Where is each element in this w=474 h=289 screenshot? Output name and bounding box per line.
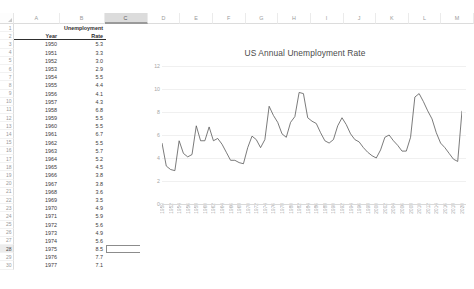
cell-b30[interactable]: 7.1 [60,261,106,269]
cell-a17[interactable]: 1964 [14,155,60,163]
cell-a22[interactable]: 1969 [14,196,60,204]
row-header-23[interactable]: 23 [0,204,14,212]
cell-b12[interactable]: 5.5 [60,114,106,122]
row-header-18[interactable]: 18 [0,163,14,171]
row-header-9[interactable]: 9 [0,90,14,98]
column-header-b[interactable]: B [60,13,105,24]
cell-a2[interactable]: Year [14,32,60,40]
cell-b6[interactable]: 2.9 [60,65,106,73]
cell-b18[interactable]: 4.5 [60,163,106,171]
cell-b28[interactable]: 8.5 [60,245,106,253]
cell-b26[interactable]: 4.9 [60,229,106,237]
cell-b3[interactable]: 5.3 [60,40,106,48]
cell-a28[interactable]: 1975 [14,245,60,253]
cell-b8[interactable]: 4.4 [60,81,106,89]
cell-b17[interactable]: 5.2 [60,155,106,163]
row-header-4[interactable]: 4 [0,49,14,57]
column-header-a[interactable]: A [14,13,59,24]
row-header-11[interactable]: 11 [0,106,14,114]
cell-b15[interactable]: 5.5 [60,139,106,147]
column-header-c[interactable]: C [105,13,148,24]
cell-b19[interactable]: 3.8 [60,171,106,179]
cell-b24[interactable]: 5.9 [60,212,106,220]
cell-b9[interactable]: 4.1 [60,90,106,98]
select-all-corner[interactable] [0,13,14,24]
cell-a21[interactable]: 1968 [14,188,60,196]
row-header-7[interactable]: 7 [0,73,14,81]
cell-a3[interactable]: 1950 [14,40,60,48]
row-header-10[interactable]: 10 [0,98,14,106]
row-header-6[interactable]: 6 [0,65,14,73]
cell-a12[interactable]: 1959 [14,114,60,122]
cell-b2[interactable]: Rate [60,32,106,40]
cell-b14[interactable]: 6.7 [60,130,106,138]
cell-a18[interactable]: 1965 [14,163,60,171]
row-header-5[interactable]: 5 [0,57,14,65]
cell-a8[interactable]: 1955 [14,81,60,89]
cell-b1[interactable]: Unemployment [60,24,106,32]
row-header-1[interactable]: 1 [0,24,14,32]
cell-a23[interactable]: 1970 [14,204,60,212]
column-header-l[interactable]: L [409,13,442,24]
cell-b5[interactable]: 3.0 [60,57,106,65]
row-header-22[interactable]: 22 [0,196,14,204]
cell-b20[interactable]: 3.8 [60,180,106,188]
row-header-13[interactable]: 13 [0,122,14,130]
cell-a1[interactable] [14,24,60,32]
row-header-29[interactable]: 29 [0,253,14,261]
cell-b23[interactable]: 4.9 [60,204,106,212]
cell-a16[interactable]: 1963 [14,147,60,155]
column-header-i[interactable]: I [311,13,344,24]
row-header-14[interactable]: 14 [0,130,14,138]
cell-b29[interactable]: 7.7 [60,253,106,261]
cell-a30[interactable]: 1977 [14,261,60,269]
column-header-k[interactable]: K [376,13,409,24]
column-header-f[interactable]: F [213,13,246,24]
cell-b4[interactable]: 3.3 [60,49,106,57]
cell-b11[interactable]: 6.8 [60,106,106,114]
cell-b10[interactable]: 4.3 [60,98,106,106]
row-header-25[interactable]: 25 [0,221,14,229]
cell-b22[interactable]: 3.5 [60,196,106,204]
cell-a19[interactable]: 1966 [14,171,60,179]
row-header-27[interactable]: 27 [0,237,14,245]
row-header-17[interactable]: 17 [0,155,14,163]
cell-b16[interactable]: 5.7 [60,147,106,155]
column-header-j[interactable]: J [344,13,377,24]
row-header-30[interactable]: 30 [0,261,14,269]
row-header-15[interactable]: 15 [0,139,14,147]
cell-a29[interactable]: 1976 [14,253,60,261]
cell-a10[interactable]: 1957 [14,98,60,106]
cell-b21[interactable]: 3.6 [60,188,106,196]
cell-c1[interactable] [106,24,150,32]
cell-b7[interactable]: 5.5 [60,73,106,81]
cell-a20[interactable]: 1967 [14,180,60,188]
row-header-19[interactable]: 19 [0,171,14,179]
cell-a4[interactable]: 1951 [14,49,60,57]
row-header-28[interactable]: 28 [0,245,14,253]
column-header-e[interactable]: E [180,13,213,24]
row-header-3[interactable]: 3 [0,40,14,48]
cell-a15[interactable]: 1962 [14,139,60,147]
cell-a25[interactable]: 1972 [14,221,60,229]
row-header-8[interactable]: 8 [0,81,14,89]
chart-object[interactable]: US Annual Unemployment Rate 024681012 19… [140,34,470,282]
cell-b13[interactable]: 5.5 [60,122,106,130]
row-header-24[interactable]: 24 [0,212,14,220]
cell-a5[interactable]: 1952 [14,57,60,65]
cell-a24[interactable]: 1971 [14,212,60,220]
row-header-2[interactable]: 2 [0,32,14,40]
cell-a14[interactable]: 1961 [14,130,60,138]
cell-a9[interactable]: 1956 [14,90,60,98]
cell-a27[interactable]: 1974 [14,237,60,245]
cell-a6[interactable]: 1953 [14,65,60,73]
cell-b27[interactable]: 5.6 [60,237,106,245]
column-header-h[interactable]: H [278,13,311,24]
column-header-g[interactable]: G [246,13,279,24]
row-header-16[interactable]: 16 [0,147,14,155]
row-header-26[interactable]: 26 [0,229,14,237]
cell-a7[interactable]: 1954 [14,73,60,81]
cell-a13[interactable]: 1960 [14,122,60,130]
cell-a26[interactable]: 1973 [14,229,60,237]
cell-b25[interactable]: 5.6 [60,221,106,229]
